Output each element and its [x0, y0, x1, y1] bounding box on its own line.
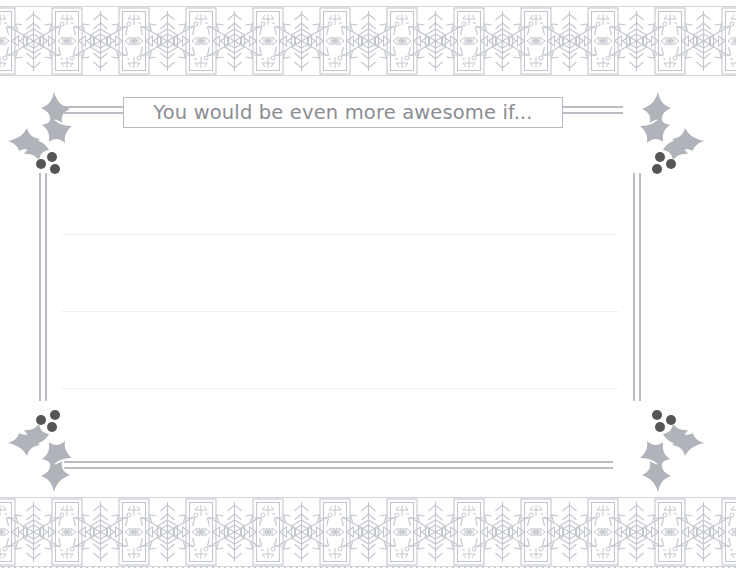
bottom-snowflake-border: [0, 495, 736, 569]
frame-left-rule-outer: [39, 173, 41, 401]
holly-sprig-bottom-right: [600, 386, 710, 496]
frame-left-rule-inner: [45, 173, 47, 401]
writing-line: [62, 234, 618, 235]
holly-sprig-top-right: [600, 88, 710, 198]
writing-line: [62, 311, 618, 312]
title-plate: You would be even more awesome if...: [123, 97, 563, 128]
writing-line: [62, 388, 618, 389]
frame-bottom-rule-upper: [64, 461, 613, 463]
holly-sprig-bottom-left: [2, 386, 112, 496]
holly-sprig-top-left: [2, 88, 112, 198]
frame-right-rule-inner: [633, 173, 635, 401]
frame-right-rule-outer: [639, 173, 641, 401]
christmas-note-page: You would be even more awesome if...: [0, 0, 736, 576]
top-snowflake-border: [0, 4, 736, 78]
page-title: You would be even more awesome if...: [153, 101, 532, 124]
frame-bottom-rule-lower: [64, 467, 613, 469]
bottom-dotted-edge: [0, 566, 736, 569]
